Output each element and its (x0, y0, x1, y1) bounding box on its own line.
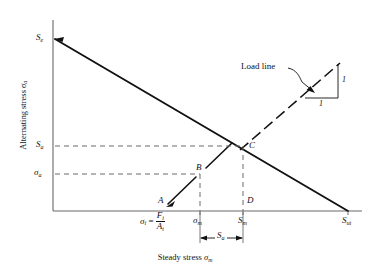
ytick-label-sigma-a: σa (34, 168, 42, 178)
ytick-sa-sub: a (41, 144, 44, 150)
xtick-sut-sub: ut (347, 220, 352, 226)
formula-lhs-sub: i (144, 220, 146, 226)
dimension-arrowhead-right-icon (236, 236, 243, 241)
y-axis-label-symbol-sub: a (22, 81, 28, 84)
xtick-label-sm: Sm (238, 216, 247, 226)
formula-fraction: Fi At (156, 211, 165, 232)
xtick-sm-sub: m (243, 220, 247, 226)
slope-run-label: 1 (319, 100, 323, 108)
load-line-leader (288, 68, 302, 82)
xtick-sigma-m-sub: m (197, 220, 201, 226)
load-line-segment-ab (168, 177, 196, 204)
plot-canvas (0, 0, 374, 280)
slope-rise-label: 1 (342, 76, 346, 84)
y-axis-label: Alternating stress σa (18, 55, 29, 175)
goodman-line (55, 39, 348, 211)
formula-numerator-sub: i (162, 215, 164, 221)
formula-denominator-sub: t (162, 226, 164, 232)
formula-denominator: At (156, 222, 165, 232)
formula-equals: = (148, 216, 153, 226)
y-axis-label-symbol: σ (18, 84, 28, 88)
load-line-annotation: Load line (241, 62, 275, 71)
x-axis-label: Steady stress σm (120, 252, 250, 263)
ytick-label-se: Se (36, 33, 43, 43)
xtick-label-sut: Sut (342, 216, 351, 226)
preload-stress-formula: σi = Fi At (140, 211, 165, 232)
x-axis-label-text: Steady stress (158, 252, 204, 262)
point-label-c: C (249, 141, 255, 150)
y-axis-label-text: Alternating stress (18, 88, 28, 150)
load-line-dashed (240, 63, 340, 150)
point-label-d: D (247, 196, 254, 205)
dimension-arrowhead-left-icon (200, 236, 207, 241)
goodman-diagram-figure: Alternating stress σa Steady stress σm S… (0, 0, 374, 280)
dimension-label-sa: Sa (215, 231, 227, 241)
xtick-label-sigma-m: σm (193, 216, 202, 226)
ytick-se-sub: e (41, 37, 44, 43)
ytick-label-sa: Sa (36, 140, 44, 150)
dimension-sa-sub: a (222, 235, 225, 241)
load-line-segment-bc (206, 143, 232, 168)
point-label-b: B (196, 163, 202, 172)
ytick-sigma-a-sub: a (38, 172, 41, 178)
point-label-a: A (158, 196, 164, 205)
x-axis-label-symbol-sub: m (208, 257, 212, 263)
